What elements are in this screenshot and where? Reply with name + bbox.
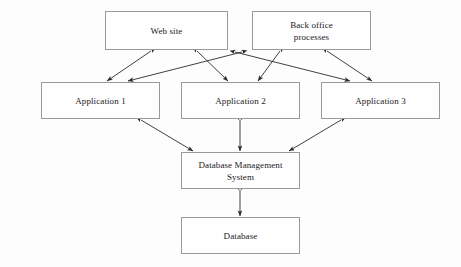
node-application-1: Application 1 (41, 82, 160, 119)
architecture-diagram: Web siteBack office processesApplication… (0, 0, 461, 267)
connector-application-1-to-dbms (141, 120, 193, 151)
node-label-application-3: Application 3 (352, 95, 409, 107)
node-database: Database (181, 217, 300, 254)
connector-application-3-to-dbms (289, 120, 341, 151)
node-database-management-system: Database Management System (181, 152, 300, 189)
node-label-application-2: Application 2 (212, 95, 269, 107)
node-label-database: Database (221, 230, 261, 242)
connector-back-office-to-application-3 (327, 51, 372, 81)
node-application-2: Application 2 (181, 82, 300, 119)
node-back-office-processes: Back office processes (252, 11, 371, 50)
connector-web-site-to-application-3 (235, 52, 350, 81)
node-web-site: Web site (105, 11, 228, 50)
node-label-web-site: Web site (148, 25, 186, 37)
connector-back-office-to-application-1 (128, 52, 242, 81)
node-label-back-office-processes: Back office processes (287, 19, 336, 43)
connector-group (107, 51, 372, 216)
node-label-application-1: Application 1 (72, 95, 129, 107)
node-label-database-management-system: Database Management System (195, 159, 285, 183)
connector-web-site-to-application-2 (197, 51, 228, 81)
node-application-3: Application 3 (321, 82, 440, 119)
connector-web-site-to-application-1 (107, 51, 151, 81)
connector-back-office-to-application-2 (258, 51, 280, 81)
